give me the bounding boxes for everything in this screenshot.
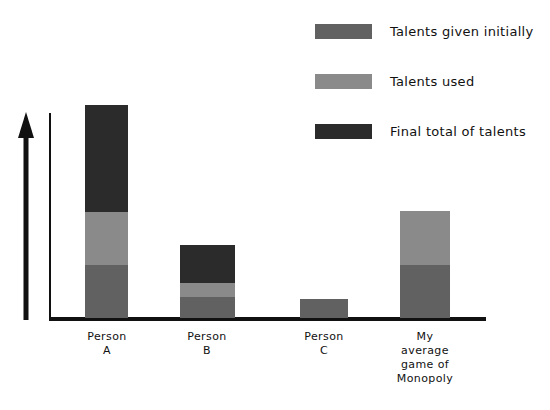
legend-swatch-talents-given-initially [315, 24, 372, 39]
legend-label-talents-given-initially: Talents given initially [390, 24, 534, 39]
bar-segment-person-a-final [85, 105, 128, 212]
bar-segment-person-b-given [180, 297, 235, 318]
legend-swatch-final-total-of-talents [315, 124, 372, 139]
bar-segment-person-a-given [85, 265, 128, 318]
bar-chart: Person APerson BPerson CMy average game … [0, 0, 550, 410]
legend-item-final-total-of-talents: Final total of talents [315, 118, 534, 144]
legend-item-talents-given-initially: Talents given initially [315, 18, 534, 44]
bar-segment-person-b-used [180, 283, 235, 297]
legend-label-final-total-of-talents: Final total of talents [390, 124, 526, 139]
bar-person-a [85, 105, 128, 318]
bar-segment-person-a-used [85, 212, 128, 265]
bar-segment-person-b-final [180, 245, 235, 283]
bar-person-b [180, 245, 235, 318]
legend-swatch-talents-used [315, 74, 372, 89]
bar-person-c [300, 299, 348, 318]
y-axis-line [49, 113, 51, 319]
legend-item-talents-used: Talents used [315, 68, 534, 94]
x-tick-label-person-c: Person C [277, 330, 371, 358]
x-tick-label-person-b: Person B [160, 330, 254, 358]
bar-monopoly [400, 211, 450, 318]
x-tick-label-monopoly: My average game of Monopoly [378, 330, 472, 386]
legend-label-talents-used: Talents used [390, 74, 474, 89]
bar-segment-monopoly-given [400, 265, 450, 318]
chart-legend: Talents given initially Talents used Fin… [315, 18, 534, 168]
x-tick-label-person-a: Person A [60, 330, 154, 358]
bar-segment-monopoly-used [400, 211, 450, 265]
y-axis-arrow-icon [18, 112, 34, 320]
bar-segment-person-c-given [300, 299, 348, 318]
